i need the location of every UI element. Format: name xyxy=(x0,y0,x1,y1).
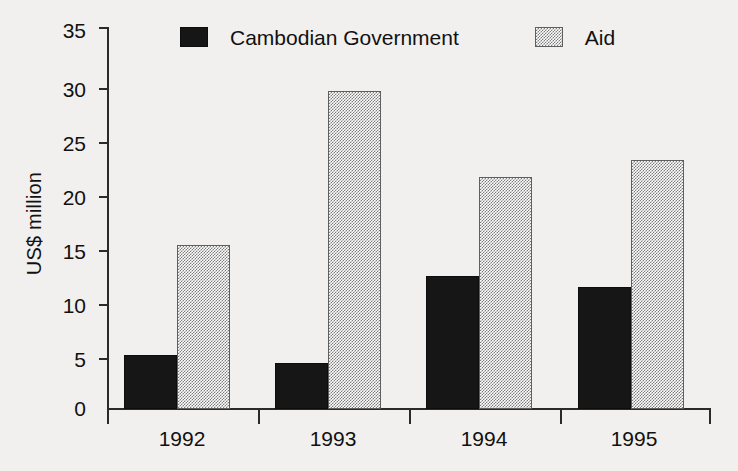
bar-aid-1993 xyxy=(328,91,381,409)
y-tick-label-10: 10 xyxy=(34,295,86,316)
y-tick-label-20: 20 xyxy=(34,187,86,208)
y-tick-label-30: 30 xyxy=(34,79,86,100)
bar-cambodian-government-1995 xyxy=(578,287,631,409)
x-tick-mark-3 xyxy=(560,410,562,424)
legend-label-aid: Aid xyxy=(585,27,615,48)
bar-cambodian-government-1992 xyxy=(124,355,177,409)
x-tick-label-1994: 1994 xyxy=(409,428,559,450)
x-tick-label-1993: 1993 xyxy=(258,428,408,450)
legend-swatch-gray-checker-icon xyxy=(535,27,563,47)
bar-aid-1992 xyxy=(177,245,230,409)
x-tick-mark-1 xyxy=(258,410,260,424)
bar-aid-1995 xyxy=(631,160,684,409)
y-tick-label-35: 35 xyxy=(34,20,86,41)
chart-legend: Cambodian Government Aid xyxy=(180,24,615,50)
y-tick-label-25: 25 xyxy=(34,133,86,154)
bar-cambodian-government-1994 xyxy=(426,276,479,409)
y-tick-label-0: 0 xyxy=(34,398,86,419)
x-tick-mark-0 xyxy=(107,410,109,424)
x-tick-label-1995: 1995 xyxy=(559,428,709,450)
x-tick-label-1992: 1992 xyxy=(107,428,257,450)
x-tick-mark-2 xyxy=(409,410,411,424)
legend-item-aid: Aid xyxy=(535,27,615,48)
bar-cambodian-government-1993 xyxy=(275,363,328,409)
y-tick-label-5: 5 xyxy=(34,349,86,370)
bar-chart: US$ million 35 30 25 20 15 10 5 0 1992 1… xyxy=(0,0,738,471)
bar-aid-1994 xyxy=(479,177,532,409)
legend-item-cambodian-government: Cambodian Government xyxy=(180,27,459,48)
y-tick-label-15: 15 xyxy=(34,241,86,262)
x-tick-mark-4 xyxy=(709,410,711,424)
legend-label-cambodian-government: Cambodian Government xyxy=(230,27,459,48)
y-axis-line xyxy=(107,27,109,409)
legend-swatch-solid-black-icon xyxy=(180,27,208,47)
